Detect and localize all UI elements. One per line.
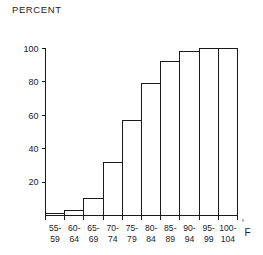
- x-axis-labels: 55-5960-6465-6970-7475-7980-8485-8990-94…: [49, 223, 237, 244]
- fahrenheit-label: F: [245, 227, 251, 238]
- x-tick-label-lower: 59: [50, 234, 60, 244]
- x-tick-label-upper: 60-: [68, 223, 81, 233]
- x-tick-label-upper: 65-: [87, 223, 100, 233]
- x-tick-label-lower: 84: [146, 234, 156, 244]
- bar-80-84: [142, 84, 161, 216]
- degree-symbol: °: [242, 219, 245, 226]
- x-tick-label-lower: 89: [166, 234, 176, 244]
- x-tick-label-lower: 104: [221, 234, 236, 244]
- y-tick-label: 80: [28, 77, 38, 87]
- x-tick-label-upper: 70-: [106, 223, 119, 233]
- bar-65-69: [84, 199, 103, 216]
- bar-70-74: [103, 162, 122, 215]
- y-tick-label: 20: [28, 177, 38, 187]
- bar-60-64: [65, 210, 84, 215]
- bar-95-99: [199, 49, 218, 216]
- y-tick-label: 40: [28, 144, 38, 154]
- chart-container: PERCENT 20406080100 55-5960-6465-6970-74…: [0, 0, 263, 255]
- x-tick-label-upper: 55-: [49, 223, 62, 233]
- x-tick-label-lower: 79: [127, 234, 137, 244]
- bars-group: [46, 49, 238, 216]
- bar-90-94: [180, 52, 199, 216]
- y-tick-label: 60: [28, 111, 38, 121]
- x-axis-unit: °F: [242, 219, 251, 238]
- bar-85-89: [161, 62, 180, 216]
- bar-75-79: [122, 120, 141, 215]
- x-tick-label-lower: 74: [108, 234, 118, 244]
- bar-100-104: [218, 49, 237, 216]
- y-axis-ticks: 20406080100: [23, 44, 45, 188]
- x-axis-ticks: [46, 216, 238, 220]
- x-tick-label-lower: 94: [185, 234, 195, 244]
- x-tick-label-upper: 75-: [126, 223, 139, 233]
- x-tick-label-upper: 90-: [183, 223, 196, 233]
- x-tick-label-upper: 95-: [202, 223, 215, 233]
- x-tick-label-lower: 69: [89, 234, 99, 244]
- x-tick-label-upper: 80-: [145, 223, 158, 233]
- x-tick-label-lower: 99: [204, 234, 214, 244]
- x-tick-label-upper: 100-: [219, 223, 236, 233]
- y-tick-label: 100: [23, 44, 38, 54]
- x-tick-label-upper: 85-: [164, 223, 177, 233]
- chart-plot-area: 20406080100 55-5960-6465-6970-7475-7980-…: [0, 0, 263, 255]
- x-tick-label-lower: 64: [70, 234, 80, 244]
